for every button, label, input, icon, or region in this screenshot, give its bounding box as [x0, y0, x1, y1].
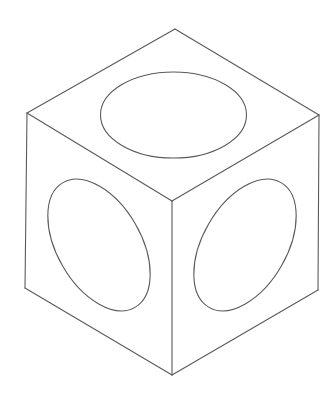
edge-inner-left — [27, 113, 172, 201]
edge-inner-right — [172, 115, 319, 201]
edge-bottom-right — [172, 290, 318, 375]
edge-top-right — [175, 29, 319, 115]
edge-bottom-left — [25, 288, 172, 375]
cube-edges — [25, 29, 319, 375]
edge-right-vertical — [318, 115, 319, 290]
edge-top-left — [27, 29, 175, 113]
top-face-circular-hole — [101, 72, 247, 158]
edge-left-vertical — [25, 113, 27, 288]
drawing-canvas — [0, 0, 336, 400]
left-face-circular-hole — [27, 162, 172, 329]
isometric-cube-drawing — [0, 0, 336, 400]
